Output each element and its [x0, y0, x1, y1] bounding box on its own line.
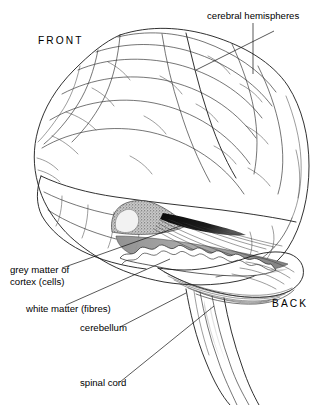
leader-cerebellum: [120, 293, 186, 327]
label-grey-matter-line1: grey matter of: [10, 264, 70, 275]
gyrus-arc-6: [42, 129, 244, 194]
occipital-sulcus-1: [286, 96, 301, 218]
spinal-cord-left-edge: [186, 289, 230, 405]
label-cerebellum: cerebellum: [80, 322, 127, 333]
annotation-labels: FRONT BACK cerebral hemispheres grey mat…: [10, 10, 308, 388]
gyrus-arc-4: [62, 77, 256, 138]
brain-diagram-figure: FRONT BACK cerebral hemispheres grey mat…: [0, 0, 332, 405]
label-cerebral-hemispheres: cerebral hemispheres: [207, 10, 299, 21]
label-grey-matter-line2: cortex (cells): [10, 276, 64, 287]
label-white-matter: white matter (fibres): [25, 303, 111, 314]
temporal-pole-2: [37, 158, 58, 170]
parietal-notch-1: [240, 84, 262, 102]
occipital-sulcus-2: [296, 150, 300, 198]
parietal-notch-6: [214, 146, 236, 164]
temporal-notch-2: [82, 205, 88, 238]
gyrus-arc-2: [96, 45, 272, 107]
parietal-notch-9: [130, 156, 152, 174]
spinal-cord-group: [186, 289, 259, 405]
spinal-cord-fibre-2: [212, 296, 249, 405]
leader-spinal-cord: [120, 306, 214, 382]
cutaway-interior-group: [111, 201, 290, 277]
central-sulcus: [186, 33, 236, 178]
brain-illustration: FRONT BACK cerebral hemispheres grey mat…: [0, 0, 332, 405]
orientation-label-front: FRONT: [38, 35, 84, 46]
spinal-cord-shading-2: [210, 304, 226, 362]
label-spinal-cord: spinal cord: [80, 377, 126, 388]
orientation-label-back: BACK: [272, 298, 308, 309]
gyrus-arc-3: [78, 59, 262, 118]
leader-white-matter: [66, 259, 170, 305]
leader-cerebral-hemispheres-diagonal: [196, 31, 274, 70]
occipital-fold-1: [266, 226, 274, 260]
frontal-sulcus-3: [38, 66, 80, 142]
spinal-cord-shading: [204, 300, 220, 358]
frontal-sulcus-6: [92, 88, 114, 106]
parietal-notch-3: [248, 168, 270, 186]
white-matter-band: [120, 245, 276, 276]
temporal-gyrus-2: [48, 210, 116, 239]
frontal-sulcus-5: [52, 136, 78, 154]
